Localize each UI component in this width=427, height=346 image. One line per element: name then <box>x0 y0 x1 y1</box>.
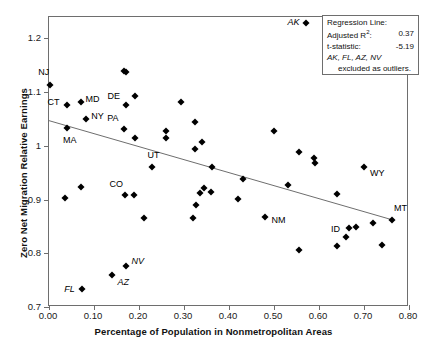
x-tick-label: 0.40 <box>219 310 238 321</box>
y-tick-label: 0.9 <box>28 193 41 204</box>
y-tick-mark <box>44 38 49 39</box>
point-label-nj: NJ <box>38 67 49 77</box>
point-label-wy: WY <box>370 168 385 178</box>
y-tick-label: 1.2 <box>28 32 41 43</box>
y-tick-mark <box>44 146 49 147</box>
x-tick-label: 0.60 <box>309 310 328 321</box>
legend-title: Regression Line: <box>327 18 415 29</box>
x-axis-title: Percentage of Population in Nonmetropoli… <box>0 326 427 337</box>
point-label-mt: MT <box>394 203 407 213</box>
point-label-pa: PA <box>107 113 118 123</box>
point-label-az: AZ <box>117 277 129 287</box>
legend-outliers-line2: excluded as outliers. <box>327 64 415 75</box>
point-label-md: MD <box>86 94 100 104</box>
point-label-fl: FL <box>64 284 75 294</box>
point-label-nm: NM <box>271 215 285 225</box>
y-tick-mark <box>44 200 49 201</box>
legend-value-r2: 0.37 <box>398 29 414 40</box>
point-label-de: DE <box>108 91 121 101</box>
x-tick-label: 0.30 <box>174 310 193 321</box>
x-tick-label: 0.00 <box>39 310 58 321</box>
point-label-ma: MA <box>63 135 77 145</box>
chart-page: NJCTMDNYMADEPAUTWYCONMIDMTNVAZFLAK Zero … <box>0 0 427 346</box>
y-tick-label: 0.8 <box>28 247 41 258</box>
x-tick-label: 0.20 <box>129 310 148 321</box>
point-label-ct: CT <box>47 97 59 107</box>
y-tick-mark <box>44 253 49 254</box>
legend-label-r2: Adjusted R2: <box>327 31 372 40</box>
point-label-id: ID <box>331 224 340 234</box>
x-tick-label: 0.50 <box>264 310 283 321</box>
legend-label-tstat: t-statistic: <box>327 42 361 51</box>
y-tick-label: 1 <box>36 139 41 150</box>
point-label-ak: AK <box>288 17 300 27</box>
legend-box: Regression Line: Adjusted R2: 0.37 t-sta… <box>322 15 419 75</box>
legend-row-r2: Adjusted R2: 0.37 <box>327 29 415 42</box>
x-tick-label: 0.10 <box>84 310 103 321</box>
x-tick-label: 0.70 <box>354 310 373 321</box>
point-label-co: CO <box>110 179 124 189</box>
point-label-ny: NY <box>91 111 104 121</box>
y-tick-label: 1.1 <box>28 86 41 97</box>
point-label-ut: UT <box>148 150 160 160</box>
legend-row-tstat: t-statistic: -5.19 <box>327 42 415 53</box>
x-tick-label: 0.80 <box>399 310 418 321</box>
point-label-nv: NV <box>132 256 145 266</box>
legend-value-tstat: -5.19 <box>396 42 414 53</box>
y-tick-mark <box>44 92 49 93</box>
legend-outliers-line1: AK, FL, AZ, NV <box>327 53 415 64</box>
